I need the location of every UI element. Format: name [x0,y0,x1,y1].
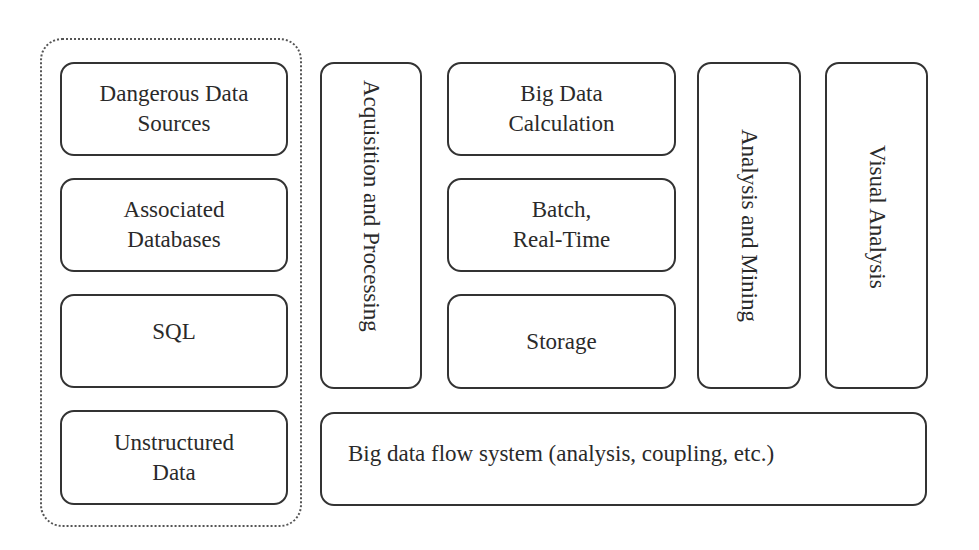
box-big-data-flow-system: Big data flow system (analysis, coupling… [320,412,927,506]
box-batch-real-time: Batch, Real-Time [447,178,676,272]
box-label-line1: Storage [526,327,596,357]
box-label-line2: Databases [124,225,225,255]
box-label-line2: Sources [100,109,249,139]
box-associated-databases: Associated Databases [60,178,288,272]
box-sql: SQL [60,294,288,388]
box-label: Big data flow system (analysis, coupling… [348,439,774,469]
box-analysis-mining: Analysis and Mining [697,62,801,389]
box-label-line2: Calculation [508,109,614,139]
box-visual-analysis: Visual Analysis [825,62,928,389]
box-big-data-calculation: Big Data Calculation [447,62,676,156]
box-label: Visual Analysis [862,145,892,289]
box-label-line1: SQL [152,317,195,347]
box-label: Analysis and Mining [734,129,764,322]
box-label-line1: Big Data [508,79,614,109]
box-label-line1: Dangerous Data [100,79,249,109]
box-label: Acquisition and Processing [356,80,386,332]
box-label-line2: Real-Time [513,225,611,255]
box-acquisition-processing: Acquisition and Processing [320,62,422,389]
box-storage: Storage [447,294,676,389]
box-label-line2: Data [114,458,234,488]
box-unstructured-data: Unstructured Data [60,410,288,505]
box-label-line1: Unstructured [114,428,234,458]
box-label-line1: Associated [124,195,225,225]
box-dangerous-data-sources: Dangerous Data Sources [60,62,288,156]
box-label-line1: Batch, [513,195,611,225]
